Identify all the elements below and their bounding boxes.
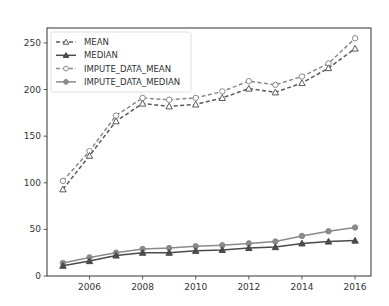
circle-marker-icon bbox=[64, 80, 69, 85]
circle-marker-icon bbox=[352, 225, 357, 230]
circle-marker-icon bbox=[60, 178, 65, 183]
legend-label: IMPUTE_DATA_MEDIAN bbox=[84, 77, 180, 87]
y-tick-label: 50 bbox=[30, 224, 42, 234]
circle-marker-icon bbox=[246, 78, 251, 83]
line-chart: 200620082010201220142016 050100150200250… bbox=[0, 0, 389, 306]
circle-marker-icon bbox=[273, 82, 278, 87]
circle-marker-icon bbox=[352, 36, 357, 41]
y-tick-label: 0 bbox=[35, 271, 41, 281]
circle-marker-icon bbox=[193, 95, 198, 100]
y-tick-label: 250 bbox=[24, 38, 41, 48]
legend-label: MEAN bbox=[84, 37, 109, 47]
circle-marker-icon bbox=[166, 97, 171, 102]
legend: MEANMEDIANIMPUTE_DATA_MEANIMPUTE_DATA_ME… bbox=[51, 32, 191, 92]
circle-marker-icon bbox=[220, 89, 225, 94]
legend-label: MEDIAN bbox=[84, 50, 118, 60]
x-tick-label: 2010 bbox=[184, 282, 207, 292]
circle-marker-icon bbox=[326, 229, 331, 234]
legend-label: IMPUTE_DATA_MEAN bbox=[84, 64, 171, 74]
y-tick-label: 200 bbox=[24, 85, 41, 95]
x-tick-label: 2012 bbox=[237, 282, 260, 292]
circle-marker-icon bbox=[64, 66, 69, 71]
x-tick-label: 2016 bbox=[344, 282, 367, 292]
x-tick-label: 2014 bbox=[290, 282, 313, 292]
y-tick-label: 150 bbox=[24, 131, 41, 141]
circle-marker-icon bbox=[299, 74, 304, 79]
x-tick-label: 2008 bbox=[131, 282, 154, 292]
y-tick-label: 100 bbox=[24, 178, 41, 188]
x-tick-label: 2006 bbox=[78, 282, 101, 292]
circle-marker-icon bbox=[299, 233, 304, 238]
